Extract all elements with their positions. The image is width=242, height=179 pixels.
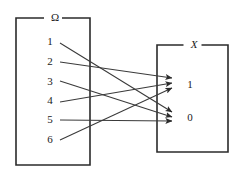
random-variable-diagram: Ω X 123456 10: [0, 0, 242, 179]
codomain-box-outline: [157, 45, 228, 152]
mapping-arrow-6-to-1: [60, 88, 172, 140]
element-omega-5: 5: [47, 113, 53, 125]
element-x-zero: 0: [187, 111, 193, 123]
diagram-canvas: Ω X 123456 10: [0, 0, 242, 179]
mapping-arrow-group: [60, 43, 172, 140]
codomain-set-label: X: [190, 38, 199, 50]
element-omega-1: 1: [47, 35, 53, 47]
codomain-element-group: 10: [187, 78, 193, 123]
domain-set-box: Ω: [16, 11, 90, 165]
mapping-arrow-1-to-0: [60, 43, 172, 112]
element-omega-6: 6: [47, 133, 53, 145]
domain-box-outline: [16, 18, 90, 165]
element-omega-4: 4: [47, 94, 53, 106]
element-omega-2: 2: [47, 55, 53, 67]
element-x-one: 1: [187, 78, 193, 90]
mapping-arrow-2-to-1: [60, 62, 172, 78]
mapping-arrow-5-to-0: [60, 120, 172, 121]
domain-element-group: 123456: [47, 35, 53, 145]
element-omega-3: 3: [47, 75, 53, 87]
codomain-set-box: X: [157, 38, 228, 152]
domain-set-label: Ω: [51, 11, 59, 23]
